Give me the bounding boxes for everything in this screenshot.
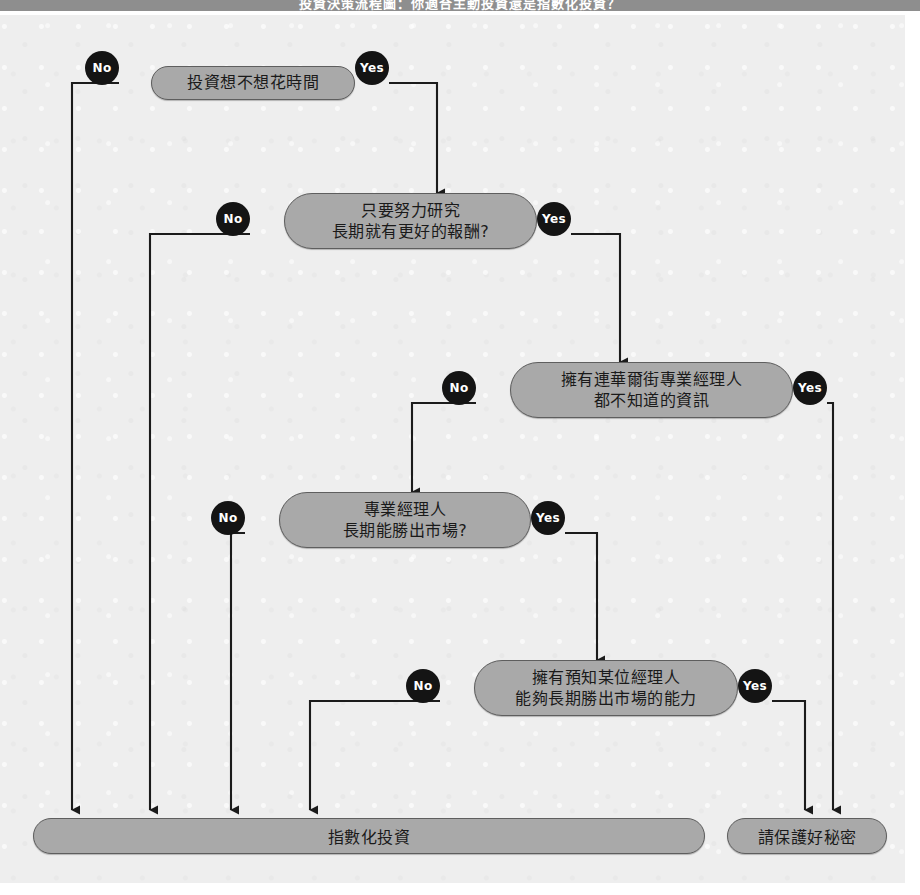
decision-node-4-label: 專業經理人 長期能勝出市場? bbox=[343, 499, 468, 541]
decision-node-3-label: 擁有連華爾街專業經理人 都不知道的資訊 bbox=[561, 369, 743, 411]
wire-d1-yes bbox=[389, 83, 437, 193]
result-protect-secret[interactable]: 請保護好秘密 bbox=[727, 818, 887, 854]
decision-node-2-label: 只要努力研究 長期就有更好的報酬? bbox=[332, 200, 490, 242]
header-bar: 投資決策流程圖：你適合主動投資還是指數化投資？ bbox=[0, 0, 920, 11]
badge-yes-3[interactable]: Yes bbox=[793, 371, 827, 405]
badge-no-1[interactable]: No bbox=[85, 51, 119, 85]
wire-d2-yes bbox=[571, 234, 620, 362]
badge-no-5[interactable]: No bbox=[406, 669, 440, 703]
connector-lines bbox=[0, 15, 905, 883]
badge-yes-4[interactable]: Yes bbox=[531, 501, 565, 535]
wire-d4-yes bbox=[565, 533, 597, 660]
result-index-investing-label: 指數化投資 bbox=[328, 824, 411, 848]
decision-node-5-label: 擁有預知某位經理人 能夠長期勝出市場的能力 bbox=[515, 667, 697, 709]
decision-node-2[interactable]: 只要努力研究 長期就有更好的報酬? bbox=[284, 193, 537, 249]
page-title: 投資決策流程圖：你適合主動投資還是指數化投資？ bbox=[0, 0, 920, 11]
badge-no-3[interactable]: No bbox=[442, 371, 476, 405]
flowchart-page: 投資決策流程圖：你適合主動投資還是指數化投資？ bbox=[0, 0, 920, 895]
wire-d3-no bbox=[412, 403, 476, 492]
decision-node-4[interactable]: 專業經理人 長期能勝出市場? bbox=[279, 492, 531, 548]
badge-no-2[interactable]: No bbox=[216, 202, 250, 236]
wire-d5-no bbox=[310, 701, 440, 810]
wire-d3-yes bbox=[827, 403, 833, 810]
badge-yes-5[interactable]: Yes bbox=[738, 669, 772, 703]
badge-yes-1[interactable]: Yes bbox=[355, 51, 389, 85]
badge-no-4[interactable]: No bbox=[211, 501, 245, 535]
badge-yes-2[interactable]: Yes bbox=[537, 202, 571, 236]
wire-d5-yes bbox=[772, 701, 805, 810]
result-index-investing[interactable]: 指數化投資 bbox=[33, 818, 705, 854]
wire-d4-no bbox=[231, 533, 245, 810]
flowchart-canvas: 投資想不想花時間 No Yes 只要努力研究 長期就有更好的報酬? No Yes… bbox=[0, 15, 905, 883]
decision-node-3[interactable]: 擁有連華爾街專業經理人 都不知道的資訊 bbox=[510, 362, 793, 418]
decision-node-1-label: 投資想不想花時間 bbox=[187, 72, 319, 93]
result-protect-secret-label: 請保護好秘密 bbox=[758, 824, 857, 848]
wire-d1-no bbox=[72, 83, 119, 810]
decision-node-1[interactable]: 投資想不想花時間 bbox=[151, 66, 355, 100]
decision-node-5[interactable]: 擁有預知某位經理人 能夠長期勝出市場的能力 bbox=[474, 660, 738, 716]
